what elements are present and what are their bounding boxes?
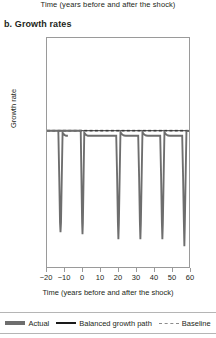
legend-swatch-actual-icon bbox=[5, 321, 25, 325]
chart-legend: Actual Balanced growth path Baseline bbox=[0, 312, 216, 334]
x-tick-label: 60 bbox=[178, 273, 202, 282]
legend-label-actual: Actual bbox=[28, 319, 49, 328]
page-title: b. Growth rates bbox=[4, 19, 72, 29]
legend-swatch-balanced-growth-path-icon bbox=[56, 322, 76, 324]
series-actual-line bbox=[47, 131, 189, 246]
x-tick-mark bbox=[82, 268, 83, 272]
x-tick-mark bbox=[190, 268, 191, 272]
x-axis: −20 −10 0 10 20 30 40 50 60 bbox=[46, 268, 190, 288]
legend-label-baseline: Baseline bbox=[182, 319, 211, 328]
legend-item-baseline: Baseline bbox=[159, 319, 211, 328]
legend-item-actual: Actual bbox=[5, 319, 49, 328]
x-tick-mark bbox=[118, 268, 119, 272]
x-tick-mark bbox=[100, 268, 101, 272]
chart-plot-area bbox=[46, 37, 190, 268]
legend-label-balanced-growth-path: Balanced growth path bbox=[79, 319, 152, 328]
x-tick-mark bbox=[64, 268, 65, 272]
previous-panel-axis-title: Time (years before and after the shock) bbox=[0, 0, 216, 9]
y-axis-title: Growth rate bbox=[9, 64, 18, 154]
legend-swatch-baseline-icon bbox=[159, 323, 179, 324]
series-actual-initial-shock bbox=[58, 131, 68, 233]
x-tick-mark bbox=[172, 268, 173, 272]
growth-rates-line-chart bbox=[47, 38, 189, 267]
x-tick-mark bbox=[46, 268, 47, 272]
x-tick-mark bbox=[136, 268, 137, 272]
x-axis-title: Time (years before and after the shock) bbox=[0, 288, 216, 297]
x-tick-mark bbox=[154, 268, 155, 272]
legend-item-balanced-growth-path: Balanced growth path bbox=[56, 319, 152, 328]
